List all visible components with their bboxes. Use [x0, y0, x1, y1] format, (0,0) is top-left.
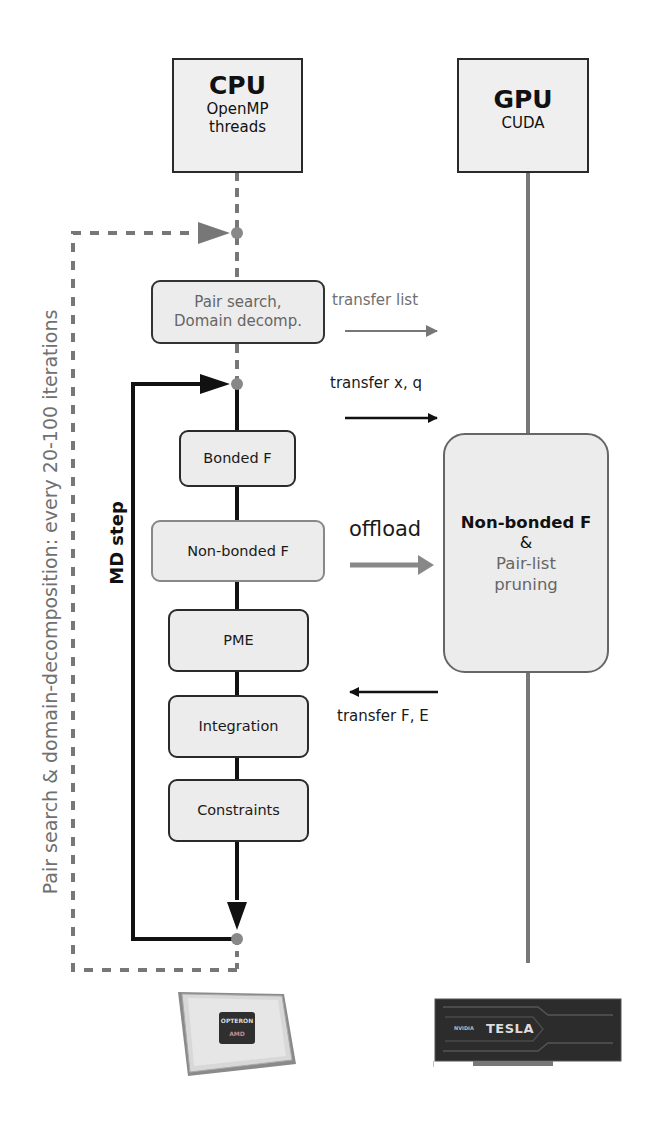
cpu-title: CPU [174, 72, 301, 100]
gpu-subtitle: CUDA [459, 114, 587, 132]
transfer-list-label: transfer list [332, 291, 418, 309]
step-pair-search: Pair search, Domain decomp. [151, 280, 325, 344]
transfer-fe-label: transfer F, E [337, 707, 429, 725]
md-step-label: MD step [106, 473, 128, 613]
gpu-task-main: Non-bonded F [461, 512, 591, 533]
step-nonbonded-f-label: Non-bonded F [187, 542, 289, 561]
gpu-task-amp: & [520, 533, 532, 553]
gpu-title: GPU [459, 86, 587, 114]
step-bonded-f-label: Bonded F [203, 449, 271, 468]
cpu-chip-label-plate: OPTERON AMD [219, 1012, 255, 1044]
outer-loop-label: Pair search & domain-decomposition: ever… [39, 230, 63, 975]
cpu-chip-brand-line2: AMD [219, 1030, 255, 1037]
step-nonbonded-f: Non-bonded F [151, 520, 325, 582]
step-pair-search-line2: Domain decomp. [174, 312, 302, 331]
gpu-header-box: GPU CUDA [457, 58, 589, 173]
gpu-card-name: TESLA [486, 1021, 534, 1036]
md-step-down-arrowhead [227, 902, 247, 930]
offload-label: offload [349, 517, 421, 541]
step-pme-label: PME [223, 631, 253, 650]
cpu-subtitle-line1: OpenMP [174, 100, 301, 118]
step-constraints-label: Constraints [197, 801, 280, 820]
step-pair-search-line1: Pair search, [194, 293, 281, 312]
gpu-task-sub-line2: pruning [494, 574, 558, 595]
cpu-subtitle-line2: threads [174, 118, 301, 136]
gpu-task-box: Non-bonded F & Pair-list pruning [443, 433, 609, 673]
gpu-card-image: NVIDIA TESLA [433, 997, 623, 1067]
cpu-header-box: CPU OpenMP threads [172, 58, 303, 173]
outer-loop-junction-dot [231, 227, 243, 239]
md-step-loop-arrowhead [200, 374, 230, 394]
step-integration: Integration [168, 695, 309, 758]
step-integration-label: Integration [199, 717, 279, 736]
step-pme: PME [168, 609, 309, 672]
transfer-xq-label: transfer x, q [330, 374, 422, 392]
outer-loop-arrowhead [198, 222, 230, 244]
step-constraints: Constraints [168, 779, 309, 842]
gpu-task-sub-line1: Pair-list [496, 553, 556, 574]
cpu-chip-image: OPTERON AMD [176, 990, 298, 1078]
gpu-card-brand: NVIDIA [454, 1025, 474, 1031]
cpu-chip-brand-line1: OPTERON [219, 1017, 255, 1024]
md-loop-junction-dot [231, 378, 243, 390]
md-loop-end-dot [231, 933, 243, 945]
step-bonded-f: Bonded F [179, 430, 296, 487]
